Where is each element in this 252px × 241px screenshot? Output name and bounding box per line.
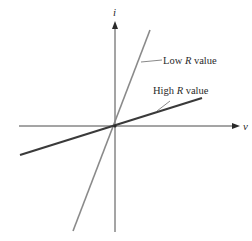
iv-characteristic-diagram: v i Low R value High R value xyxy=(0,0,252,241)
v-axis-label: v xyxy=(243,120,248,132)
low-r-label-suffix: value xyxy=(191,55,217,66)
low-r-line xyxy=(73,30,150,231)
origin-point xyxy=(113,124,116,127)
low-r-label-prefix: Low xyxy=(163,55,185,66)
low-r-leader xyxy=(141,60,162,62)
diagram-canvas: v i Low R value High R value xyxy=(0,0,252,241)
high-r-label-suffix: value xyxy=(183,85,209,96)
i-axis-label: i xyxy=(113,6,116,18)
v-axis-arrowhead-icon xyxy=(232,123,240,129)
low-r-label: Low R value xyxy=(163,55,217,66)
high-r-label: High R value xyxy=(153,85,209,96)
high-r-label-prefix: High xyxy=(153,85,177,96)
i-axis-arrowhead-icon xyxy=(112,21,118,29)
